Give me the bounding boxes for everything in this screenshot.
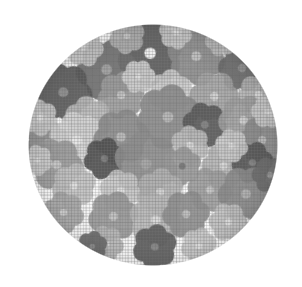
- fabric-swatch: [28, 24, 278, 266]
- flower-motif: [28, 143, 54, 176]
- flower-motif: [131, 223, 179, 266]
- flower-motif: [108, 24, 146, 55]
- flower-motif: [28, 99, 59, 136]
- image-canvas: [0, 0, 302, 287]
- flower-motif: [40, 189, 86, 235]
- swatch-clip: [28, 24, 278, 266]
- flower-motif: [75, 229, 109, 263]
- flower-motif: [179, 226, 220, 266]
